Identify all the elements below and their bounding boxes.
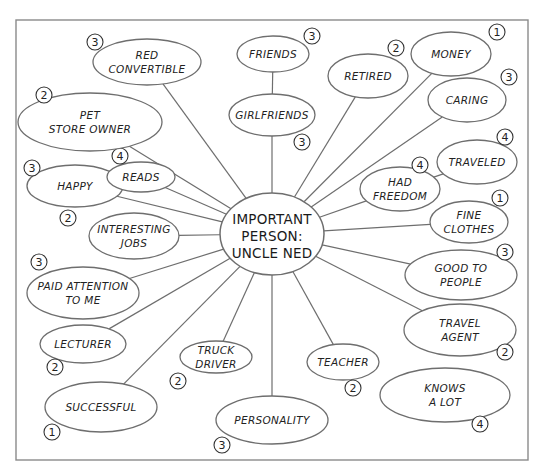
- node-label: AGENT: [440, 331, 480, 343]
- central-node: IMPORTANT PERSON: UNCLE NED: [220, 193, 324, 275]
- node-knows-a-lot: KNOWSA LOT4: [380, 368, 510, 432]
- concept-map-canvas: REDCONVERTIBLE3FRIENDS3GIRLFRIENDS3RETIR…: [0, 0, 542, 475]
- node-label: FRIENDS: [249, 48, 297, 60]
- node-fine-clothes: FINECLOTHES1: [430, 190, 508, 243]
- node-label: TRAVEL: [439, 317, 481, 329]
- rating-badge: 1: [49, 426, 56, 439]
- node-ellipse: [27, 267, 139, 319]
- rating-badge: 3: [299, 136, 306, 149]
- node-label: GIRLFRIENDS: [235, 109, 308, 121]
- node-interesting-jobs: INTERESTINGJOBS2: [60, 210, 179, 259]
- node-reads: READS4: [107, 148, 175, 192]
- connector-good-to-people: [322, 245, 410, 264]
- node-label: PAID ATTENTION: [37, 280, 128, 292]
- node-label: CARING: [446, 94, 489, 106]
- rating-badge: 1: [494, 26, 501, 39]
- rating-badge: 3: [29, 162, 36, 175]
- rating-badge: 4: [477, 418, 484, 431]
- connector-had-freedom: [319, 201, 366, 217]
- node-label: A LOT: [428, 396, 463, 408]
- node-personality: PERSONALITY3: [214, 396, 328, 453]
- node-friends: FRIENDS3: [237, 28, 320, 72]
- rating-badge: 2: [175, 375, 182, 388]
- node-label: PERSONALITY: [234, 414, 311, 426]
- rating-badge: 3: [506, 71, 513, 84]
- rating-badge: 3: [502, 246, 509, 259]
- node-happy: HAPPY3: [24, 160, 123, 207]
- node-label: FINE: [457, 209, 482, 221]
- node-label: JOBS: [119, 237, 147, 249]
- node-truck-driver: TRUCKDRIVER2: [170, 341, 252, 389]
- node-successful: SUCCESSFUL1: [44, 382, 157, 440]
- connector-truck-driver: [223, 273, 254, 342]
- node-label: TO ME: [65, 294, 100, 306]
- central-node-line-1: IMPORTANT: [232, 211, 312, 227]
- rating-badge: 2: [52, 361, 59, 374]
- node-teacher: TEACHER2: [307, 344, 379, 396]
- node-good-to-people: GOOD TOPEOPLE3: [405, 244, 517, 300]
- node-label: TRUCK: [197, 344, 235, 356]
- node-label: STORE OWNER: [49, 123, 131, 135]
- rating-badge: 3: [309, 30, 316, 43]
- rating-badge: 2: [65, 212, 72, 225]
- node-label: TEACHER: [317, 356, 369, 368]
- node-label: INTERESTING: [97, 223, 170, 235]
- rating-badge: 3: [36, 256, 43, 269]
- connector-travel-agent: [316, 256, 423, 310]
- node-lecturer: LECTURER2: [40, 325, 126, 375]
- rating-badge: 2: [502, 346, 509, 359]
- rating-badge: 4: [417, 159, 424, 172]
- node-paid-attention-to-me: PAID ATTENTIONTO ME3: [27, 254, 139, 319]
- node-label: CONVERTIBLE: [108, 63, 185, 75]
- node-red-convertible: REDCONVERTIBLE3: [87, 34, 201, 85]
- node-label: GOOD TO: [435, 262, 488, 274]
- central-node-line-2: PERSON:: [241, 228, 302, 244]
- connector-fine-clothes: [324, 224, 430, 230]
- rating-badge: 2: [393, 42, 400, 55]
- node-travel-agent: TRAVELAGENT2: [404, 304, 516, 360]
- node-pet-store-owner: PETSTORE OWNER2: [18, 87, 162, 151]
- node-money: MONEY1: [411, 24, 505, 76]
- connector-teacher: [293, 272, 334, 345]
- node-ellipse: [93, 39, 201, 85]
- rating-badge: 3: [92, 36, 99, 49]
- node-label: RETIRED: [344, 70, 392, 82]
- node-label: TRAVELED: [448, 156, 505, 168]
- node-ellipse: [430, 201, 508, 243]
- node-label: SUCCESSFUL: [65, 401, 136, 413]
- connector-interesting-jobs: [179, 235, 220, 236]
- connector-traveled: [434, 174, 444, 177]
- node-retired: RETIRED2: [328, 40, 408, 98]
- node-label: DRIVER: [195, 358, 236, 370]
- rating-badge: 2: [350, 382, 357, 395]
- node-label: FREEDOM: [373, 190, 427, 202]
- node-label: PET: [80, 109, 102, 121]
- node-label: KNOWS: [424, 382, 466, 394]
- central-node-line-3: UNCLE NED: [232, 245, 313, 261]
- node-label: HAD: [388, 176, 412, 188]
- node-caring: CARING3: [428, 69, 517, 122]
- node-label: MONEY: [431, 48, 472, 60]
- rating-badge: 2: [41, 89, 48, 102]
- node-label: PEOPLE: [440, 276, 482, 288]
- node-ellipse: [360, 167, 440, 211]
- node-traveled: TRAVELED4: [437, 129, 517, 184]
- node-ellipse: [380, 368, 510, 422]
- node-label: HAPPY: [57, 180, 94, 192]
- node-label: CLOTHES: [444, 223, 495, 235]
- rating-badge: 1: [497, 192, 504, 205]
- rating-badge: 3: [219, 439, 226, 452]
- node-label: LECTURER: [54, 338, 112, 350]
- connector-red-convertible: [163, 84, 246, 198]
- node-label: READS: [122, 171, 159, 183]
- node-ellipse: [89, 213, 179, 259]
- rating-badge: 4: [502, 131, 509, 144]
- rating-badge: 4: [117, 150, 124, 163]
- node-label: RED: [136, 49, 159, 61]
